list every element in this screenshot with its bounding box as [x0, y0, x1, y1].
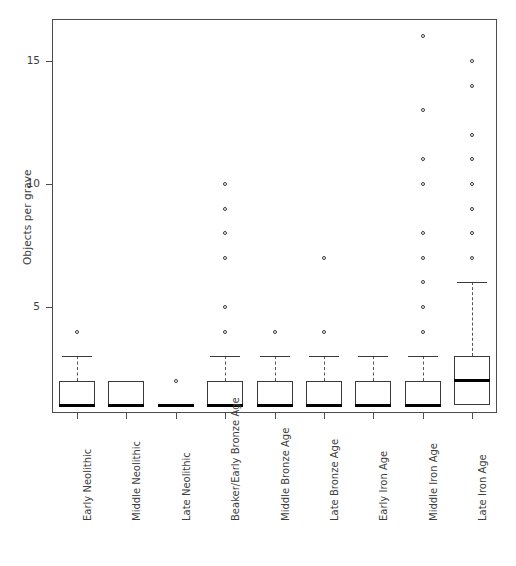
median-line — [405, 404, 441, 407]
x-tick-mark — [324, 413, 325, 419]
x-tick-mark — [423, 413, 424, 419]
x-tick-mark — [126, 413, 127, 419]
whisker-cap — [408, 356, 438, 357]
whisker-cap — [358, 356, 388, 357]
whisker-line — [275, 356, 276, 381]
y-tick-label: 5 — [10, 300, 40, 312]
y-tick-label: 15 — [10, 54, 40, 66]
whisker-line — [77, 356, 78, 381]
outlier-point — [75, 330, 79, 334]
outlier-point — [470, 207, 474, 211]
whisker-cap — [457, 282, 487, 283]
boxplot-figure: Objects per grave 51015 Early NeolithicM… — [0, 0, 516, 566]
x-tick-mark — [225, 413, 226, 419]
outlier-point — [470, 84, 474, 88]
whisker-cap — [62, 356, 92, 357]
x-tick-label: Middle Bronze Age — [280, 428, 291, 521]
whisker-cap — [309, 356, 339, 357]
outlier-point — [421, 182, 425, 186]
x-tick-mark — [373, 413, 374, 419]
box-rect — [355, 381, 391, 406]
whisker-line — [324, 356, 325, 381]
whisker-line — [225, 356, 226, 381]
median-line — [158, 404, 194, 407]
x-tick-mark — [176, 413, 177, 419]
x-tick-label: Early Neolithic — [82, 449, 93, 521]
median-line — [59, 404, 95, 407]
outlier-point — [223, 256, 227, 260]
outlier-point — [421, 305, 425, 309]
box-rect — [59, 381, 95, 406]
median-line — [454, 379, 490, 382]
box-rect — [257, 381, 293, 406]
box-rect — [405, 381, 441, 406]
box-rect — [108, 381, 144, 406]
x-tick-label: Late Bronze Age — [329, 439, 340, 521]
outlier-point — [421, 256, 425, 260]
x-tick-mark — [275, 413, 276, 419]
x-tick-label: Early Iron Age — [378, 451, 389, 521]
whisker-line — [472, 282, 473, 356]
x-tick-label: Late Iron Age — [477, 454, 488, 521]
y-tick-label: 10 — [10, 177, 40, 189]
box-rect — [306, 381, 342, 406]
x-tick-label: Late Neolithic — [181, 452, 192, 521]
outlier-point — [421, 231, 425, 235]
outlier-point — [223, 207, 227, 211]
plot-area — [52, 19, 497, 413]
outlier-point — [421, 330, 425, 334]
median-line — [355, 404, 391, 407]
outlier-point — [322, 330, 326, 334]
outlier-point — [421, 108, 425, 112]
outlier-point — [174, 379, 178, 383]
whisker-cap — [260, 356, 290, 357]
whisker-line — [373, 356, 374, 381]
outlier-point — [322, 256, 326, 260]
x-tick-label: Middle Neolithic — [131, 441, 142, 521]
x-tick-mark — [77, 413, 78, 419]
outlier-point — [273, 330, 277, 334]
x-tick-label: Middle Iron Age — [428, 443, 439, 521]
median-line — [108, 404, 144, 407]
whisker-line — [423, 356, 424, 381]
median-line — [257, 404, 293, 407]
x-tick-label: Beaker/Early Bronze Age — [230, 397, 241, 521]
outlier-point — [223, 330, 227, 334]
median-line — [306, 404, 342, 407]
x-tick-mark — [472, 413, 473, 419]
whisker-cap — [210, 356, 240, 357]
